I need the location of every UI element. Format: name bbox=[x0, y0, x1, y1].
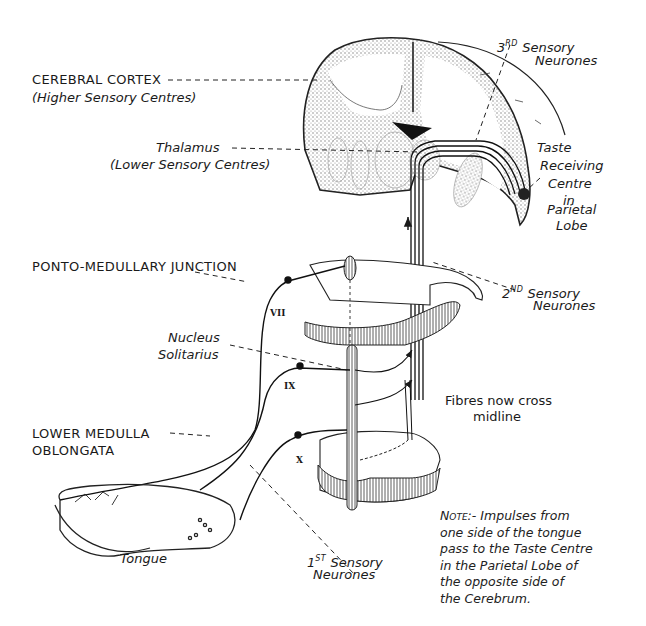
note-text: Impulses from bbox=[480, 508, 569, 523]
taste-centre-line-1: Taste bbox=[537, 140, 571, 156]
taste-centre-line-3: Centre bbox=[548, 176, 592, 192]
ordinal-suffix: RD bbox=[505, 39, 518, 48]
ordinal-suffix: ND bbox=[510, 285, 523, 294]
second-sensory-neurones-label-line2: Neurones bbox=[533, 298, 595, 314]
nerve-x-label: X bbox=[296, 455, 303, 465]
explanatory-note: Note:- Impulses from one side of the ton… bbox=[440, 508, 593, 607]
note-line: Note:- Impulses from bbox=[440, 508, 593, 525]
note-line: pass to the Taste Centre bbox=[440, 541, 593, 558]
cranial-nerves bbox=[60, 266, 350, 520]
taste-centre-line-2: Receiving bbox=[540, 158, 604, 174]
cerebral-cortex-label: CEREBRAL CORTEX bbox=[32, 72, 161, 88]
fibres-cross-label: Fibres now cross bbox=[445, 393, 552, 409]
note-lead: Note:- bbox=[440, 508, 476, 523]
note-line: in the Parietal Lobe of bbox=[440, 558, 593, 575]
brainstem bbox=[305, 256, 482, 510]
thalamus-sublabel: (Lower Sensory Centres) bbox=[110, 157, 270, 173]
note-line: the Cerebrum. bbox=[440, 591, 593, 608]
taste-centre-line-5: Parietal bbox=[547, 202, 596, 218]
taste-centre-line-6: Lobe bbox=[556, 218, 587, 234]
cerebral-cortex-sublabel: (Higher Sensory Centres) bbox=[32, 90, 196, 106]
first-sensory-neurones-label-line2: Neurones bbox=[313, 567, 375, 583]
nerve-vii-label: VII bbox=[270, 308, 285, 318]
ordinal-suffix: ST bbox=[315, 554, 326, 563]
fibres-cross-label-line2: midline bbox=[473, 409, 521, 425]
lower-medulla-label-line2: OBLONGATA bbox=[32, 443, 114, 459]
taste-centre-marker bbox=[518, 188, 530, 200]
nucleus-solitarius-label-line2: Solitarius bbox=[158, 347, 218, 363]
note-line: the opposite side of bbox=[440, 574, 593, 591]
lower-medulla-label: LOWER MEDULLA bbox=[32, 426, 150, 442]
ponto-medullary-junction-label: PONTO-MEDULLARY JUNCTION bbox=[32, 259, 237, 275]
tongue-label: Tongue bbox=[120, 551, 167, 567]
nerve-ix-label: IX bbox=[284, 381, 295, 391]
nucleus-solitarius-label: Nucleus bbox=[168, 330, 220, 346]
third-sensory-neurones-label-line2: Neurones bbox=[535, 53, 597, 69]
thalamus-label: Thalamus bbox=[156, 140, 219, 156]
note-line: one side of the tongue bbox=[440, 525, 593, 542]
